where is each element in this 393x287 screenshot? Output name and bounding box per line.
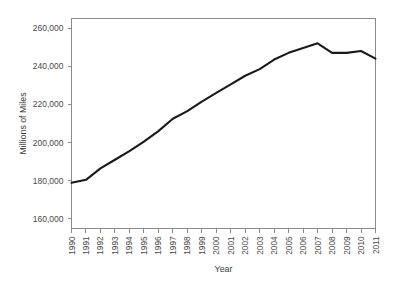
x-tick-label: 1994 [125, 236, 134, 255]
line-chart-figure: 160,000180,000200,000220,000240,000260,0… [0, 0, 393, 287]
x-tick-label: 2011 [372, 236, 381, 254]
x-tick-label: 1998 [183, 236, 192, 255]
x-tick-label: 2010 [357, 236, 366, 255]
x-tick-label: 2001 [227, 236, 236, 255]
x-tick-label: 2007 [314, 236, 323, 255]
x-tick-label: 1990 [68, 236, 77, 255]
x-tick-label: 1995 [140, 236, 149, 255]
x-axis-title: Year [215, 264, 233, 274]
x-tick-label: 2002 [241, 236, 250, 255]
x-tick-label: 2006 [299, 236, 308, 255]
x-tick-label: 2008 [328, 236, 337, 255]
x-tick-label: 2009 [343, 236, 352, 255]
x-tick-label: 2005 [285, 236, 294, 255]
x-tick-label: 2004 [270, 236, 279, 255]
x-tick-label: 1997 [169, 236, 178, 255]
x-tick-label: 1991 [82, 236, 91, 255]
y-tick-label: 180,000 [33, 176, 64, 186]
chart-screenshot: 160,000180,000200,000220,000240,000260,0… [0, 0, 393, 287]
y-tick-label: 260,000 [33, 23, 64, 33]
x-tick-label: 1993 [111, 236, 120, 255]
x-tick-label: 1996 [154, 236, 163, 255]
x-tick-label: 1999 [198, 236, 207, 255]
y-tick-label: 220,000 [33, 99, 64, 109]
x-tick-label: 1992 [96, 236, 105, 255]
y-axis-title: Millions of Miles [18, 92, 28, 155]
y-tick-label: 160,000 [33, 214, 64, 224]
x-tick-label: 2000 [212, 236, 221, 255]
y-tick-label: 240,000 [33, 61, 64, 71]
x-tick-label: 2003 [256, 236, 265, 255]
y-tick-label: 200,000 [33, 138, 64, 148]
